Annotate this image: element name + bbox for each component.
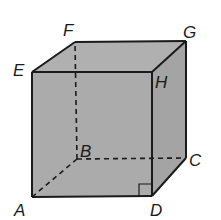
cube-diagram: A B C D E F G H <box>0 0 221 220</box>
label-C: C <box>189 151 202 170</box>
edge-GF <box>75 41 186 42</box>
label-E: E <box>13 61 25 80</box>
label-A: A <box>13 201 25 220</box>
label-G: G <box>183 23 196 42</box>
label-D: D <box>150 201 162 220</box>
label-H: H <box>155 73 168 92</box>
edge-AD <box>32 196 152 197</box>
label-B: B <box>80 142 91 161</box>
face-front <box>32 72 152 197</box>
label-F: F <box>63 21 75 40</box>
